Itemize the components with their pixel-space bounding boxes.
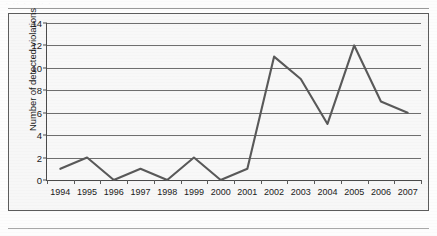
x-tick-mark — [341, 180, 342, 184]
x-tick-mark — [47, 180, 48, 184]
x-tick-label: 1996 — [104, 187, 124, 197]
y-tick-label: 6 — [37, 107, 42, 118]
y-tick-label: 8 — [37, 85, 42, 96]
line-series — [47, 23, 421, 180]
y-tick-label: 2 — [37, 152, 42, 163]
x-tick-label: 1999 — [184, 187, 204, 197]
x-tick-mark — [181, 180, 182, 184]
x-tick-label: 1998 — [157, 187, 177, 197]
x-tick-label: 2005 — [344, 187, 364, 197]
x-tick-label: 2006 — [371, 187, 391, 197]
horizontal-rule-top — [8, 8, 429, 9]
x-tick-label: 1997 — [130, 187, 150, 197]
x-tick-mark — [127, 180, 128, 184]
document-page: · ·· · · ·· · Number of detected violati… — [0, 0, 437, 236]
x-tick-mark — [287, 180, 288, 184]
x-tick-mark — [154, 180, 155, 184]
x-tick-label: 2002 — [264, 187, 284, 197]
x-tick-mark — [261, 180, 262, 184]
x-tick-mark — [100, 180, 101, 184]
x-tick-label: 2004 — [317, 187, 337, 197]
y-tick-label: 12 — [31, 40, 42, 51]
x-tick-mark — [368, 180, 369, 184]
y-tick-label: 14 — [31, 18, 42, 29]
x-tick-label: 2000 — [211, 187, 231, 197]
y-tick-label: 0 — [37, 175, 42, 186]
x-tick-mark — [314, 180, 315, 184]
plot-area: 02468101214 1994199519961997199819992000… — [46, 23, 421, 181]
x-tick-label: 1995 — [77, 187, 97, 197]
horizontal-rule-bottom — [8, 228, 429, 229]
x-tick-label: 2007 — [398, 187, 418, 197]
x-tick-mark — [421, 180, 422, 184]
x-tick-mark — [234, 180, 235, 184]
x-tick-label: 1994 — [50, 187, 70, 197]
x-tick-mark — [207, 180, 208, 184]
x-tick-mark — [74, 180, 75, 184]
y-tick-label: 10 — [31, 62, 42, 73]
cut-off-header-text: · ·· · · ·· · — [6, 0, 126, 5]
chart-figure: Number of detected violations 0246810121… — [8, 13, 429, 211]
y-tick-label: 4 — [37, 130, 42, 141]
x-tick-label: 2003 — [291, 187, 311, 197]
x-tick-label: 2001 — [237, 187, 257, 197]
x-tick-mark — [394, 180, 395, 184]
